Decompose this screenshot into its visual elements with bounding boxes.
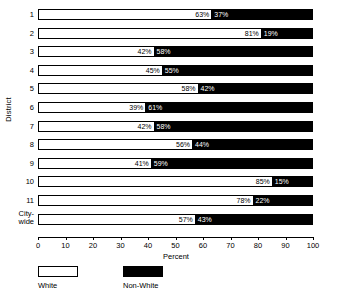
y-axis-tick-labels: 1234567891011City-wide <box>0 9 34 237</box>
x-tick-mark <box>313 237 314 240</box>
bar-label-nonwhite: 19% <box>264 28 278 39</box>
bar-label-white: 85% <box>256 176 270 187</box>
chart-legend: White Non-White <box>38 266 278 294</box>
bar-label-white: 58% <box>181 83 195 94</box>
bar-label-nonwhite: 58% <box>157 121 171 132</box>
bar-row: 63%37% <box>38 9 313 20</box>
bar-label-nonwhite: 42% <box>201 83 215 94</box>
bar-label-white: 45% <box>146 65 160 76</box>
bar-row: 45%55% <box>38 65 313 76</box>
x-tick-label: 20 <box>81 241 105 250</box>
x-tick-label: 90 <box>274 241 298 250</box>
x-tick-label: 30 <box>109 241 133 250</box>
bar-label-nonwhite: 37% <box>214 9 228 20</box>
bar-row: 56%44% <box>38 139 313 150</box>
x-tick-mark <box>286 237 287 240</box>
y-tick-label: 1 <box>0 10 34 19</box>
bar-segment-nonwhite <box>151 158 313 169</box>
y-tick-label: 3 <box>0 47 34 56</box>
x-tick-mark <box>148 237 149 240</box>
bar-segment-nonwhite <box>192 139 313 150</box>
bar-label-nonwhite: 15% <box>275 176 289 187</box>
bar-row: 39%61% <box>38 102 313 113</box>
plot-area: 63%37%81%19%42%58%45%55%58%42%39%61%42%5… <box>38 9 313 237</box>
bar-label-nonwhite: 44% <box>195 139 209 150</box>
x-tick-mark <box>258 237 259 240</box>
x-tick-label: 60 <box>191 241 215 250</box>
x-tick-mark <box>121 237 122 240</box>
bar-label-white: 81% <box>245 28 259 39</box>
bar-row: 42%58% <box>38 46 313 57</box>
bar-segment-nonwhite <box>198 83 314 94</box>
y-tick-label: City-wide <box>0 210 34 227</box>
y-tick-label: 4 <box>0 66 34 75</box>
y-tick-label: 2 <box>0 29 34 38</box>
x-tick-label: 40 <box>136 241 160 250</box>
bar-label-white: 56% <box>176 139 190 150</box>
x-tick-label: 100 <box>301 241 325 250</box>
bar-row: 42%58% <box>38 121 313 132</box>
bar-label-white: 42% <box>137 46 151 57</box>
x-tick-mark <box>66 237 67 240</box>
bar-label-nonwhite: 55% <box>165 65 179 76</box>
bar-label-nonwhite: 61% <box>148 102 162 113</box>
x-axis-title: Percent <box>38 252 314 261</box>
bar-label-nonwhite: 43% <box>198 214 212 225</box>
legend-entry-nonwhite: Non-White <box>123 266 213 290</box>
bar-row: 85%15% <box>38 176 313 187</box>
x-tick-mark <box>176 237 177 240</box>
x-tick-label: 80 <box>246 241 270 250</box>
bar-segment-nonwhite <box>195 214 313 225</box>
bar-row: 41%59% <box>38 158 313 169</box>
bar-label-white: 42% <box>137 121 151 132</box>
legend-entry-white: White <box>38 266 128 290</box>
bar-label-white: 57% <box>179 214 193 225</box>
bar-row: 57%43% <box>38 214 313 225</box>
x-tick-label: 50 <box>164 241 188 250</box>
y-tick-label: 9 <box>0 159 34 168</box>
bar-label-white: 39% <box>129 102 143 113</box>
bar-label-white: 41% <box>135 158 149 169</box>
x-tick-label: 0 <box>26 241 50 250</box>
bar-row: 78%22% <box>38 195 313 206</box>
y-tick-label: 10 <box>0 177 34 186</box>
legend-label-white: White <box>38 281 128 290</box>
legend-label-nonwhite: Non-White <box>123 281 213 290</box>
x-tick-mark <box>38 237 39 240</box>
legend-swatch-nonwhite-icon <box>123 266 163 277</box>
y-tick-label: 6 <box>0 103 34 112</box>
y-tick-label: 11 <box>0 196 34 205</box>
bar-segment-nonwhite <box>154 121 314 132</box>
bar-label-white: 63% <box>195 9 209 20</box>
y-tick-label: 5 <box>0 84 34 93</box>
bar-row: 58%42% <box>38 83 313 94</box>
bar-label-nonwhite: 59% <box>154 158 168 169</box>
bar-segment-nonwhite <box>162 65 313 76</box>
stacked-bar-chart: District 1234567891011City-wide 63%37%81… <box>0 0 347 296</box>
bar-row: 81%19% <box>38 28 313 39</box>
x-tick-label: 70 <box>219 241 243 250</box>
x-tick-mark <box>93 237 94 240</box>
x-tick-mark <box>203 237 204 240</box>
bar-segment-nonwhite <box>154 46 314 57</box>
y-tick-label: 8 <box>0 140 34 149</box>
x-tick-label: 10 <box>54 241 78 250</box>
bar-segment-nonwhite <box>145 102 313 113</box>
bar-label-nonwhite: 58% <box>157 46 171 57</box>
x-tick-mark <box>231 237 232 240</box>
bar-label-white: 78% <box>236 195 250 206</box>
legend-swatch-white-icon <box>38 266 78 277</box>
y-tick-label: 7 <box>0 122 34 131</box>
bar-label-nonwhite: 22% <box>256 195 270 206</box>
